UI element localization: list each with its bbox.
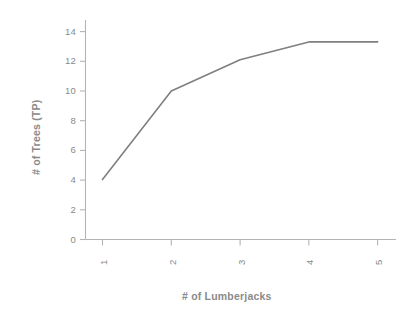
y-tick-label-0: 0 — [50, 235, 76, 245]
y-tick-label-6: 6 — [50, 145, 76, 155]
x-tick-label-3: 3 — [237, 260, 247, 265]
y-axis-ticks — [80, 32, 86, 240]
data-series-line — [103, 42, 378, 180]
x-tick-label-5: 5 — [374, 260, 384, 265]
y-tick-label-8: 8 — [50, 116, 76, 126]
y-axis-title: # of Trees (TP) — [30, 100, 42, 175]
y-tick-label-10: 10 — [50, 86, 76, 96]
y-tick-label-2: 2 — [50, 205, 76, 215]
x-axis-ticks — [103, 240, 378, 246]
plot-canvas — [0, 0, 402, 322]
y-tick-label-4: 4 — [50, 175, 76, 185]
x-tick-label-2: 2 — [168, 260, 178, 265]
y-tick-label-12: 12 — [50, 56, 76, 66]
x-tick-label-4: 4 — [305, 260, 315, 265]
x-tick-label-1: 1 — [99, 260, 109, 265]
chart-figure: 0 2 4 6 8 10 12 14 1 2 3 4 5 # of Trees … — [0, 0, 402, 322]
y-tick-label-14: 14 — [50, 27, 76, 37]
x-axis-title: # of Lumberjacks — [182, 290, 272, 302]
